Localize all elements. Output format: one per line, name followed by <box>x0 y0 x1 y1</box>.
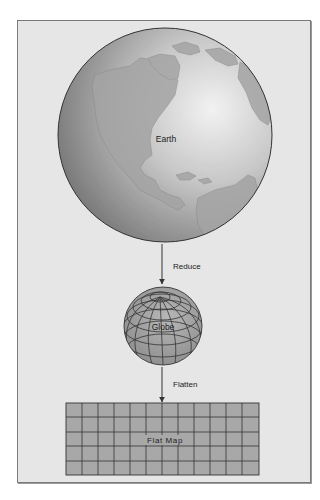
flatten-label: Flatten <box>173 380 197 389</box>
reduce-label: Reduce <box>173 262 201 271</box>
earth-globe-map-diagram: Earth Reduce Globe Flatten <box>0 0 320 500</box>
globe-label: Globe <box>152 322 175 332</box>
earth-sphere: Earth <box>58 28 272 242</box>
flat-map-label: Flat Map <box>147 436 183 445</box>
earth-label: Earth <box>156 134 177 144</box>
flat-map: Flat Map <box>66 403 259 475</box>
globe-sphere: Globe <box>123 287 203 368</box>
